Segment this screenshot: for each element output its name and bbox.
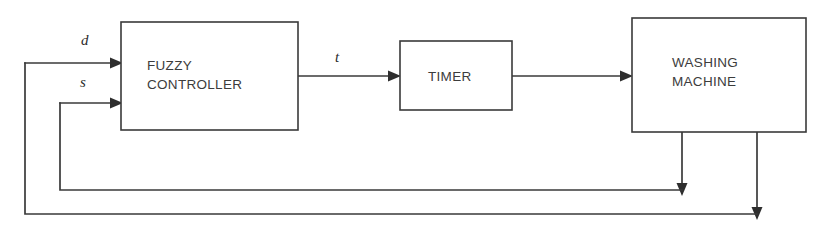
fuzzy-controller-label-line-2: CONTROLLER: [147, 77, 242, 92]
block-washing-machine[interactable]: WASHING MACHINE: [632, 18, 806, 132]
fuzzy-controller-label-line-1: FUZZY: [147, 58, 192, 73]
connection-s-to-controller: [60, 98, 123, 109]
signal-label-t: t: [335, 49, 340, 65]
arrowhead-t-icon: [388, 71, 401, 82]
fuzzy-controller-box[interactable]: [121, 22, 298, 130]
block-timer[interactable]: TIMER: [400, 41, 512, 110]
arrowhead-washing-machine-in-icon: [620, 71, 633, 82]
signal-label-s: s: [80, 74, 86, 90]
washing-machine-label-line-1: WASHING: [672, 55, 738, 70]
signal-label-d: d: [81, 32, 89, 48]
block-diagram-canvas: FUZZY CONTROLLER TIMER WASHING MACHINE d…: [0, 0, 827, 244]
block-fuzzy-controller[interactable]: FUZZY CONTROLLER: [121, 22, 298, 130]
connection-controller-to-timer: [298, 71, 401, 82]
connection-timer-to-washing-machine: [512, 71, 633, 82]
timer-label-line-1: TIMER: [428, 69, 472, 84]
washing-machine-label-line-2: MACHINE: [672, 74, 736, 89]
connection-d-to-controller: [25, 58, 123, 69]
control-loop-diagram: FUZZY CONTROLLER TIMER WASHING MACHINE d…: [0, 0, 827, 244]
